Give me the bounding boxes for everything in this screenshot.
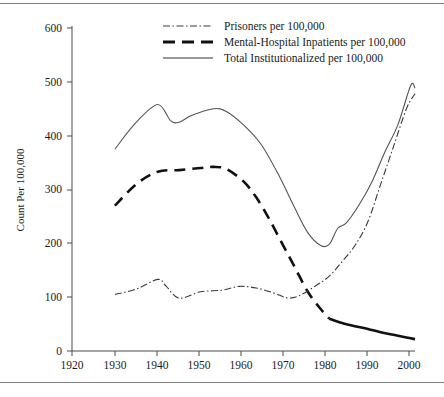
x-tick-label-1970: 1970	[272, 359, 295, 371]
x-tick-label-1940: 1940	[146, 359, 169, 371]
legend: Prisoners per 100,000 Mental-Hospital In…	[163, 20, 406, 65]
x-tick-label-1920: 1920	[61, 359, 84, 371]
y-tick-label-300: 300	[45, 183, 63, 195]
y-tick-label-500: 500	[45, 76, 63, 88]
x-tick-label-2000: 2000	[398, 359, 421, 371]
y-tick-label-600: 600	[45, 22, 63, 34]
legend-label-mental-hospital: Mental-Hospital Inpatients per 100,000	[224, 36, 406, 49]
y-tick-label-0: 0	[56, 345, 62, 357]
y-tick-label-400: 400	[45, 130, 63, 142]
series-prisoners	[115, 94, 415, 299]
line-chart: Count Per 100,000 600 500 400 300 200 10…	[0, 0, 444, 397]
series-total-institutionalized	[115, 83, 415, 246]
y-tick-label-100: 100	[45, 291, 63, 303]
chart-figure: Count Per 100,000 600 500 400 300 200 10…	[0, 0, 444, 397]
series-mental-hospital-inpatients-tail	[329, 319, 415, 339]
series-mental-hospital-inpatients	[115, 167, 329, 319]
legend-label-prisoners: Prisoners per 100,000	[224, 20, 325, 33]
legend-label-total: Total Institutionalized per 100,000	[224, 52, 383, 65]
x-tick-label-1950: 1950	[188, 359, 211, 371]
x-tick-label-1930: 1930	[104, 359, 127, 371]
x-tick-label-1980: 1980	[314, 359, 337, 371]
x-tick-label-1960: 1960	[230, 359, 253, 371]
series-group	[115, 83, 415, 339]
y-axis-title: Count Per 100,000	[14, 148, 26, 231]
x-tick-label-1990: 1990	[356, 359, 379, 371]
y-tick-label-200: 200	[45, 237, 63, 249]
